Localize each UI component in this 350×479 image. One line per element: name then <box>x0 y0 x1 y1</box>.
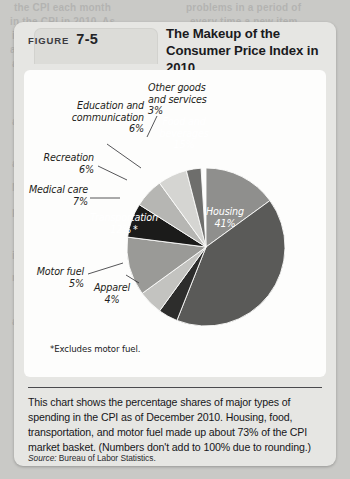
figure-card: FIGURE 7-5 The Makeup of the Consumer Pr… <box>14 22 336 466</box>
figure-number-label: 7-5 <box>76 31 98 47</box>
pie-label-motor-fuel: Motor fuel 5% <box>24 266 84 289</box>
figure-word-label: FIGURE <box>28 35 69 46</box>
pie-label-transportation: Transportation 12% * <box>76 212 172 235</box>
pie-chart: Education and communication 6% Other goo… <box>24 70 326 377</box>
figure-header: FIGURE 7-5 The Makeup of the Consumer Pr… <box>14 22 336 70</box>
leader-line-education <box>107 144 141 168</box>
pie-label-other-goods: Other goods and services 3% <box>148 82 240 117</box>
leader-line-recreation <box>98 166 127 180</box>
chart-footnote: *Excludes motor fuel. <box>50 344 140 354</box>
source-line: Source: Bureau of Labor Statistics. <box>28 453 156 463</box>
source-label: Source: <box>28 453 57 463</box>
pie-label-recreation: Recreation 6% <box>26 152 94 175</box>
leader-line-motor-fuel <box>88 263 123 274</box>
source-text: Bureau of Labor Statistics. <box>57 453 156 463</box>
pie-slices <box>127 168 285 326</box>
pie-label-food-beverages: Food and beverages 15% <box>146 116 222 151</box>
pie-label-housing: Housing 41% <box>190 206 260 229</box>
bleed-text: the CPI each month <box>14 2 111 13</box>
caption-text: This chart shows the percentage shares o… <box>28 395 324 455</box>
pie-label-medical-care: Medical care 7% <box>24 184 88 207</box>
pie-label-apparel: Apparel 4% <box>86 282 138 305</box>
pie-label-education: Education and communication 6% <box>30 100 144 135</box>
bleed-text: problems in a period of <box>186 2 301 13</box>
caption-divider <box>28 387 322 388</box>
chart-panel: Education and communication 6% Other goo… <box>24 70 326 377</box>
figure-tab-content: FIGURE 7-5 <box>28 31 98 47</box>
